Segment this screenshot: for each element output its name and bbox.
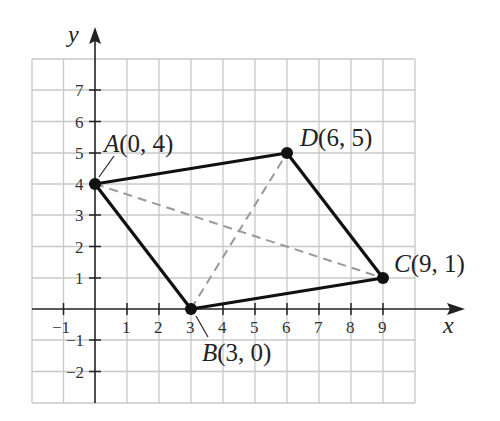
x-tick-label: 5 [250,318,259,337]
y-tick-label: 3 [75,206,84,225]
point-label-c: C(9, 1) [394,250,465,278]
vertex-b [185,303,197,315]
x-tick-label: 8 [346,318,355,337]
diagonal-bd [191,153,287,309]
x-tick-label: 1 [122,318,131,337]
x-tick-label: 4 [218,318,227,337]
x-tick-label: 3 [186,318,195,337]
vertex-c [377,272,389,284]
y-tick-label: 1 [75,269,84,288]
vertex-d [281,147,293,159]
x-axis-label: x [442,312,454,338]
y-tick-label: −2 [66,363,84,382]
coordinate-plane: −1 1 2 3 4 5 6 7 8 9 7 6 5 4 3 2 1 −1 −2… [0,0,500,421]
point-label-a: A(0, 4) [102,130,173,158]
y-tick-label: 6 [75,113,84,132]
y-tick-label: 2 [75,238,84,257]
point-label-b: B(3, 0) [202,339,271,367]
point-label-d: D(6, 5) [299,124,372,152]
vertex-a [89,178,101,190]
x-tick-labels: −1 1 2 3 4 5 6 7 8 9 [52,318,387,337]
y-tick-labels: 7 6 5 4 3 2 1 −1 −2 [66,81,84,382]
x-tick-label: 2 [154,318,163,337]
y-tick-label: 7 [75,81,84,100]
y-tick-label: 4 [75,175,84,194]
y-axis-label: y [66,21,79,47]
x-tick-label: 9 [378,318,387,337]
y-tick-label: −1 [66,331,84,350]
y-tick-label: 5 [75,144,84,163]
x-tick-label: 7 [314,318,323,337]
x-tick-label: 6 [282,318,291,337]
